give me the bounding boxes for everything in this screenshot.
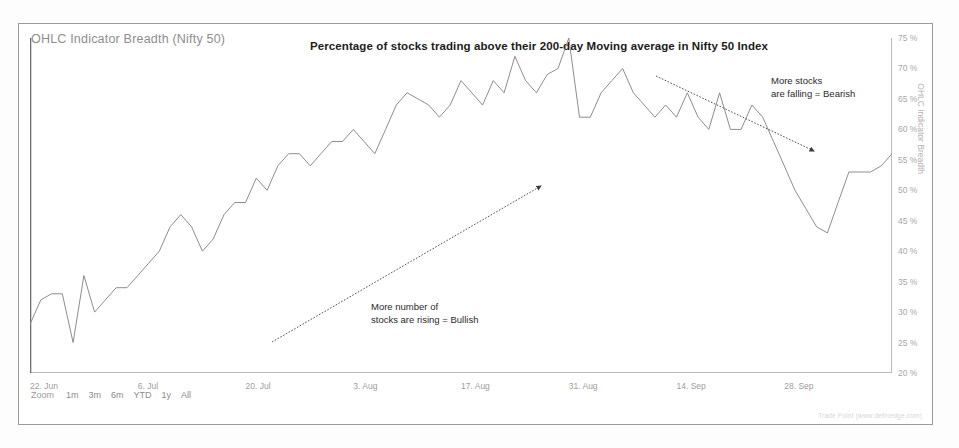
annotation-arrows: [272, 76, 814, 342]
x-axis-tick-4: 17. Aug: [461, 381, 490, 391]
source-credit: Trade Point (www.definedge.com): [818, 412, 922, 419]
range-button-all[interactable]: All: [181, 390, 191, 400]
y-axis-tick-65: 65 %: [898, 94, 917, 104]
y-axis-tick-35: 35 %: [898, 277, 917, 287]
y-axis-tick-20: 20 %: [898, 368, 917, 378]
x-axis-tick-6: 14. Sep: [677, 381, 706, 391]
x-axis-tick-3: 3. Aug: [353, 381, 377, 391]
chart-widget: OHLC Indicator Breadth (Nifty 50) Percen…: [18, 23, 933, 425]
annotation-bullish: More number of stocks are rising = Bulli…: [371, 300, 478, 326]
range-selector: Zoom 1m 3m 6m YTD 1y All: [31, 390, 191, 400]
range-button-6m[interactable]: 6m: [111, 390, 124, 400]
range-button-1m[interactable]: 1m: [66, 390, 79, 400]
y-axis-tick-50: 50 %: [898, 185, 917, 195]
series-line-breadth: [30, 38, 892, 343]
y-axis-tick-30: 30 %: [898, 307, 917, 317]
range-selector-label: Zoom: [31, 390, 54, 400]
y-axis-tick-75: 75 %: [898, 33, 917, 43]
range-button-ytd[interactable]: YTD: [134, 390, 152, 400]
range-button-1y[interactable]: 1y: [162, 390, 172, 400]
annotation-bullish-line1: More number of: [371, 300, 478, 313]
y-axis-tick-45: 45 %: [898, 216, 917, 226]
y-axis-tick-40: 40 %: [898, 246, 917, 256]
y-axis-tick-60: 60 %: [898, 124, 917, 134]
y-axis-tick-55: 55 %: [898, 155, 917, 165]
annotation-bearish-line2: are falling = Bearish: [771, 87, 855, 100]
range-button-3m[interactable]: 3m: [89, 390, 102, 400]
y-axis-tick-25: 25 %: [898, 338, 917, 348]
x-axis-tick-2: 20. Jul: [246, 381, 271, 391]
screenshot-page: OHLC Indicator Breadth (Nifty 50) Percen…: [0, 0, 959, 448]
y-axis-title: OHLC Indicator Breadth: [916, 83, 926, 174]
annotation-bullish-line2: stocks are rising = Bullish: [371, 313, 478, 326]
x-axis-tick-7: 28. Sep: [784, 381, 813, 391]
y-axis-tick-70: 70 %: [898, 63, 917, 73]
x-axis-tick-5: 31. Aug: [569, 381, 598, 391]
annotation-bearish: More stocks are falling = Bearish: [771, 74, 855, 100]
annotation-bearish-line1: More stocks: [771, 74, 855, 87]
